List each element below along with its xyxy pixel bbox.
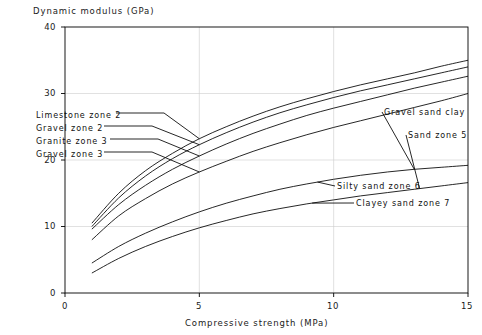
grid-layer [65,27,468,293]
series-line-2 [92,76,468,229]
plot-canvas [0,0,482,335]
series-line-1 [92,67,468,227]
curve-layer [92,60,468,273]
chart-figure: Dynamic modulus (GPa) Compressive streng… [0,0,482,335]
leader-line-layer [104,112,420,203]
leader-line-right-2 [318,182,335,186]
leader-line-left-3 [104,152,199,172]
series-line-3 [92,94,468,240]
series-line-0 [92,60,468,223]
leader-line-right-1 [406,135,420,189]
leader-line-right-0 [382,112,414,169]
series-line-4 [92,165,468,263]
series-line-5 [92,183,468,273]
